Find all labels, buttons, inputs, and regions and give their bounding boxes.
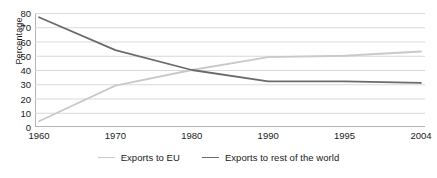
y-axis-tick-label: 70 bbox=[20, 22, 31, 33]
y-axis-tick-label: 30 bbox=[20, 79, 31, 90]
x-axis-tick-label: 1995 bbox=[334, 130, 355, 141]
legend-line-swatch-icon bbox=[98, 157, 115, 158]
y-axis-tick-label: 40 bbox=[20, 65, 31, 76]
legend-label: Exports to EU bbox=[121, 152, 180, 163]
plot-area bbox=[35, 13, 425, 127]
y-axis-tick-labels: 80706050403020100 bbox=[6, 13, 31, 127]
x-axis-tick-labels: 196019701980199019952004 bbox=[35, 130, 425, 144]
x-axis-tick-label: 1980 bbox=[181, 130, 202, 141]
legend-label: Exports to rest of the world bbox=[225, 152, 339, 163]
chart-legend: Exports to EUExports to rest of the worl… bbox=[0, 152, 437, 163]
y-axis-tick-label: 60 bbox=[20, 36, 31, 47]
x-axis-tick-label: 1970 bbox=[105, 130, 126, 141]
legend-item[interactable]: Exports to EU bbox=[98, 152, 180, 163]
legend-line-swatch-icon bbox=[202, 157, 219, 158]
y-axis-tick-label: 10 bbox=[20, 107, 31, 118]
y-axis-tick-label: 20 bbox=[20, 93, 31, 104]
x-axis-tick-label: 2004 bbox=[410, 130, 431, 141]
plot-canvas bbox=[35, 13, 425, 127]
y-axis-tick-label: 80 bbox=[20, 8, 31, 19]
series-line-1 bbox=[39, 51, 421, 121]
y-axis-tick-label: 50 bbox=[20, 50, 31, 61]
x-axis-tick-label: 1960 bbox=[28, 130, 49, 141]
x-axis-tick-label: 1990 bbox=[258, 130, 279, 141]
series-line-2 bbox=[39, 17, 421, 83]
legend-item[interactable]: Exports to rest of the world bbox=[202, 152, 339, 163]
line-chart: Percentage 80706050403020100 19601970198… bbox=[0, 0, 437, 178]
series-lines bbox=[39, 17, 421, 121]
gridlines bbox=[35, 14, 425, 128]
